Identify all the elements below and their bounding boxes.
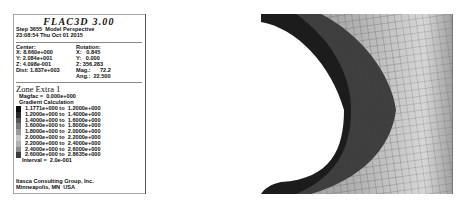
color-swatch bbox=[16, 152, 21, 158]
footer: Itasca Consulting Group, Inc. Minneapoli… bbox=[16, 179, 94, 191]
contour-plot-icon bbox=[146, 14, 453, 194]
dist: Dist: 1.837e+003 bbox=[16, 68, 76, 74]
model-plot bbox=[146, 14, 453, 194]
contour-legend: 1.1771e+000 to 1.2000e+0001.2000e+000 to… bbox=[13, 106, 145, 158]
location: Minneapolis, MN USA bbox=[16, 185, 94, 191]
view-info: Center: X: 8.660e+000 Y: 2.084e+001 Z: 4… bbox=[13, 45, 145, 80]
ang: Ang.: 22.500 bbox=[76, 74, 136, 80]
interval: Interval = 2.0e-001 bbox=[13, 158, 145, 164]
divider bbox=[16, 82, 142, 83]
divider bbox=[16, 42, 142, 43]
legend-panel: FLAC3D 3.00 Step 3655 Model Perspective … bbox=[13, 14, 146, 194]
date-line: 23:08:54 Thu Oct 01 2015 bbox=[13, 33, 145, 39]
